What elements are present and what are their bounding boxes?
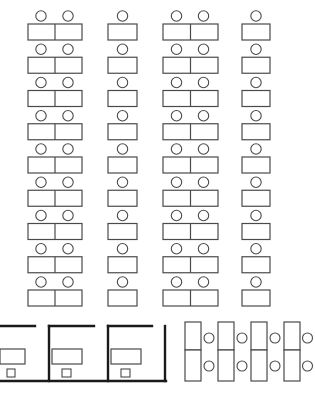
seat-icon: [63, 244, 73, 254]
seat-icon: [36, 277, 46, 287]
desk: [242, 257, 270, 273]
desk: [242, 190, 270, 206]
desk-row: [242, 77, 270, 106]
column-4: [242, 11, 270, 306]
classroom-rows: [28, 11, 270, 306]
desk-row: [242, 144, 270, 173]
desk-row: [163, 11, 218, 40]
column-3: [163, 11, 218, 306]
seat-icon: [171, 11, 181, 21]
seat-icon: [117, 111, 127, 121]
seat-icon: [36, 177, 46, 187]
cubicle-3: [108, 326, 152, 381]
desk-row: [108, 277, 137, 306]
desk: [108, 290, 137, 306]
seat-icon: [198, 277, 208, 287]
desk: [108, 24, 137, 40]
pair-2: [218, 322, 247, 381]
desk-row: [28, 44, 82, 73]
seat-icon: [303, 333, 313, 343]
desk: [108, 257, 137, 273]
seat-icon: [251, 210, 261, 220]
desk-row: [242, 111, 270, 140]
seat-icon: [204, 361, 214, 371]
desk: [251, 350, 267, 381]
seat-icon: [251, 277, 261, 287]
seat-icon: [36, 77, 46, 87]
chair-icon: [62, 369, 71, 377]
seat-icon: [36, 111, 46, 121]
desk: [108, 224, 137, 240]
seat-icon: [251, 144, 261, 154]
seat-icon: [63, 210, 73, 220]
seat-icon: [117, 244, 127, 254]
desk: [284, 322, 300, 350]
desk: [185, 322, 201, 350]
seat-icon: [171, 210, 181, 220]
desk-row: [242, 277, 270, 306]
desk: [218, 322, 234, 350]
pair-3: [251, 322, 280, 381]
seat-icon: [171, 177, 181, 187]
seat-icon: [36, 11, 46, 21]
seat-icon: [117, 177, 127, 187]
seat-icon: [117, 144, 127, 154]
seat-icon: [198, 144, 208, 154]
seat-icon: [171, 44, 181, 54]
column-1: [28, 11, 82, 306]
desk-row: [108, 244, 137, 273]
desk-row: [28, 244, 82, 273]
seat-icon: [237, 361, 247, 371]
cubicle-block: [0, 326, 166, 381]
desk-row: [28, 177, 82, 206]
seat-icon: [270, 333, 280, 343]
seat-icon: [63, 44, 73, 54]
column-2: [108, 11, 137, 306]
desk: [0, 349, 25, 364]
desk: [108, 157, 137, 173]
seat-icon: [198, 244, 208, 254]
seat-icon: [251, 111, 261, 121]
seat-icon: [171, 244, 181, 254]
seat-icon: [251, 11, 261, 21]
seat-icon: [171, 144, 181, 154]
desk-row: [163, 77, 218, 106]
seat-icon: [251, 44, 261, 54]
desk-row: [163, 210, 218, 239]
paired-desk-block: [185, 322, 313, 381]
desk: [52, 349, 82, 364]
seat-icon: [198, 77, 208, 87]
desk-row: [242, 244, 270, 273]
desk: [242, 124, 270, 140]
cubicle-1: [0, 326, 35, 377]
desk: [185, 350, 201, 381]
desk-row: [28, 77, 82, 106]
pair-1: [185, 322, 214, 381]
seat-icon: [36, 244, 46, 254]
seat-icon: [198, 111, 208, 121]
seat-icon: [63, 144, 73, 154]
desk-row: [28, 11, 82, 40]
desk: [242, 157, 270, 173]
desk-row: [28, 277, 82, 306]
desk-row: [108, 44, 137, 73]
desk: [108, 190, 137, 206]
seat-icon: [251, 244, 261, 254]
seat-icon: [237, 333, 247, 343]
desk-row: [242, 177, 270, 206]
desk: [111, 349, 141, 364]
desk-row: [108, 144, 137, 173]
desk: [242, 57, 270, 73]
desk: [108, 57, 137, 73]
desk-row: [108, 111, 137, 140]
desk-row: [163, 177, 218, 206]
desk: [284, 350, 300, 381]
seat-icon: [63, 277, 73, 287]
seat-icon: [63, 111, 73, 121]
seat-icon: [204, 333, 214, 343]
desk-row: [108, 77, 137, 106]
chair-icon: [121, 369, 130, 377]
desk-row: [28, 144, 82, 173]
seat-icon: [198, 177, 208, 187]
desk: [251, 322, 267, 350]
